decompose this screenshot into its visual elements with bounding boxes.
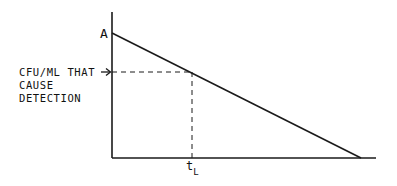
tl-label: tL — [186, 159, 199, 177]
detection-diagram: A CFU/ML THAT CAUSE DETECTION tL — [0, 0, 397, 186]
threshold-arrow-icon — [101, 69, 111, 76]
y-intercept-label: A — [100, 26, 108, 41]
tl-label-subscript: L — [193, 167, 198, 177]
tl-label-main: t — [186, 159, 193, 173]
threshold-label-line-3: DETECTION — [19, 92, 81, 104]
threshold-label-line-1: CFU/ML THAT — [19, 66, 95, 78]
threshold-label-line-2: CAUSE — [19, 79, 54, 91]
decline-line — [112, 33, 361, 158]
